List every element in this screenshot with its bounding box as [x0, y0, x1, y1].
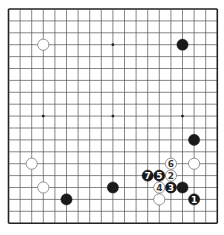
move-number-label: 5 — [156, 171, 162, 181]
move-number-label: 3 — [168, 183, 174, 193]
black-stone[interactable] — [189, 134, 200, 145]
black-stone[interactable] — [61, 194, 72, 205]
white-stone-move-2[interactable]: 2 — [165, 170, 176, 181]
stone-circle — [154, 194, 165, 205]
move-number-label: 2 — [168, 171, 174, 181]
stone-circle — [177, 182, 188, 193]
white-stone-move-6[interactable]: 6 — [165, 158, 176, 169]
stone-circle — [38, 39, 49, 50]
star-point — [42, 115, 45, 118]
white-stone[interactable] — [154, 194, 165, 205]
white-stone[interactable] — [38, 39, 49, 50]
black-stone-move-1[interactable]: 1 — [189, 194, 200, 205]
stone-circle — [38, 182, 49, 193]
white-stone[interactable] — [38, 182, 49, 193]
stone-circle — [189, 134, 200, 145]
white-stone-move-4[interactable]: 4 — [154, 182, 165, 193]
black-stone-move-3[interactable]: 3 — [165, 182, 176, 193]
stone-circle — [26, 158, 37, 169]
black-stone[interactable] — [107, 182, 118, 193]
stone-circle — [107, 182, 118, 193]
stone-circle — [189, 158, 200, 169]
white-stone[interactable] — [26, 158, 37, 169]
white-stone[interactable] — [189, 158, 200, 169]
star-point — [112, 43, 115, 46]
star-point — [112, 115, 115, 118]
black-stone-move-7[interactable]: 7 — [142, 170, 153, 181]
move-number-label: 4 — [156, 183, 162, 193]
go-board[interactable]: 1234567 — [0, 0, 224, 235]
star-point — [181, 115, 184, 118]
black-stone-move-5[interactable]: 5 — [154, 170, 165, 181]
move-number-label: 7 — [145, 171, 151, 181]
stone-circle — [61, 194, 72, 205]
stone-circle — [177, 39, 188, 50]
black-stone[interactable] — [177, 39, 188, 50]
move-number-label: 6 — [168, 159, 174, 169]
black-stone[interactable] — [177, 182, 188, 193]
move-number-label: 1 — [191, 195, 197, 205]
